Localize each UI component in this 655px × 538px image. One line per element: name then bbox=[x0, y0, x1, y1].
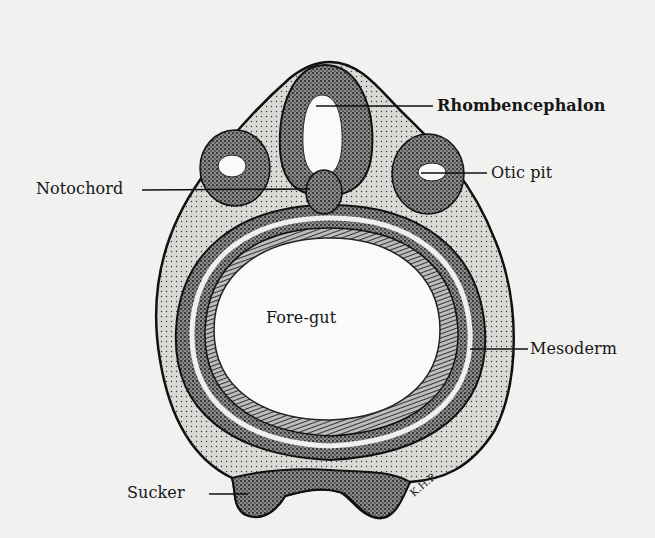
embryo-section-drawing bbox=[0, 0, 655, 538]
left-otic-pit-lumen bbox=[218, 155, 246, 177]
fore-gut-lumen bbox=[214, 238, 440, 420]
notochord-shape bbox=[306, 170, 342, 214]
label-otic-pit: Otic pit bbox=[491, 163, 552, 182]
rhombencephalon-lumen bbox=[303, 95, 342, 176]
label-rhombencephalon: Rhombencephalon bbox=[437, 96, 606, 115]
label-mesoderm: Mesoderm bbox=[530, 339, 617, 358]
label-notochord: Notochord bbox=[36, 179, 123, 198]
right-otic-pit-lumen bbox=[418, 163, 446, 181]
sucker-shape bbox=[232, 469, 410, 518]
label-fore-gut: Fore-gut bbox=[266, 308, 336, 327]
notochord-leader bbox=[142, 189, 310, 190]
label-sucker: Sucker bbox=[127, 483, 185, 502]
